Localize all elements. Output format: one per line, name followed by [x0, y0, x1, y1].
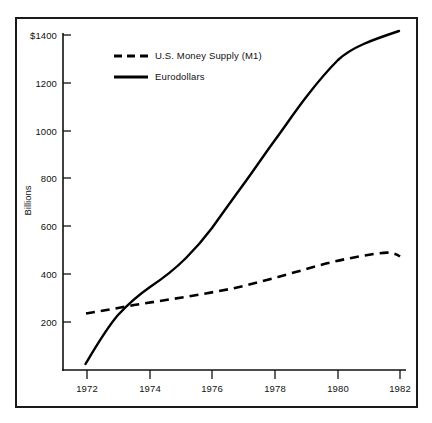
x-tick-label-1980: 1980	[327, 383, 349, 394]
y-tick-label-1400: $1400	[0, 30, 57, 41]
y-axis-title: Billions	[22, 171, 33, 231]
y-tick-label-200: 200	[0, 317, 57, 328]
y-tick-label-1000: 1000	[0, 126, 57, 137]
plot-area	[0, 0, 432, 423]
x-tick-label-1982: 1982	[389, 383, 411, 394]
legend-label-money-supply: U.S. Money Supply (M1)	[155, 50, 262, 61]
x-tick-label-1978: 1978	[264, 383, 286, 394]
chart-figure: $1400 1200 1000 800 600 400 200 1972 197…	[0, 0, 432, 423]
y-tick-label-1200: 1200	[0, 78, 57, 89]
y-axis-ticks	[63, 35, 71, 322]
x-axis-ticks	[87, 370, 400, 379]
series-line-money-supply	[86, 253, 400, 314]
y-tick-label-400: 400	[0, 269, 57, 280]
x-tick-label-1976: 1976	[201, 383, 223, 394]
x-tick-label-1974: 1974	[139, 383, 161, 394]
x-tick-label-1972: 1972	[76, 383, 98, 394]
legend-label-eurodollars: Eurodollars	[155, 71, 205, 82]
series-line-eurodollars	[86, 31, 400, 364]
